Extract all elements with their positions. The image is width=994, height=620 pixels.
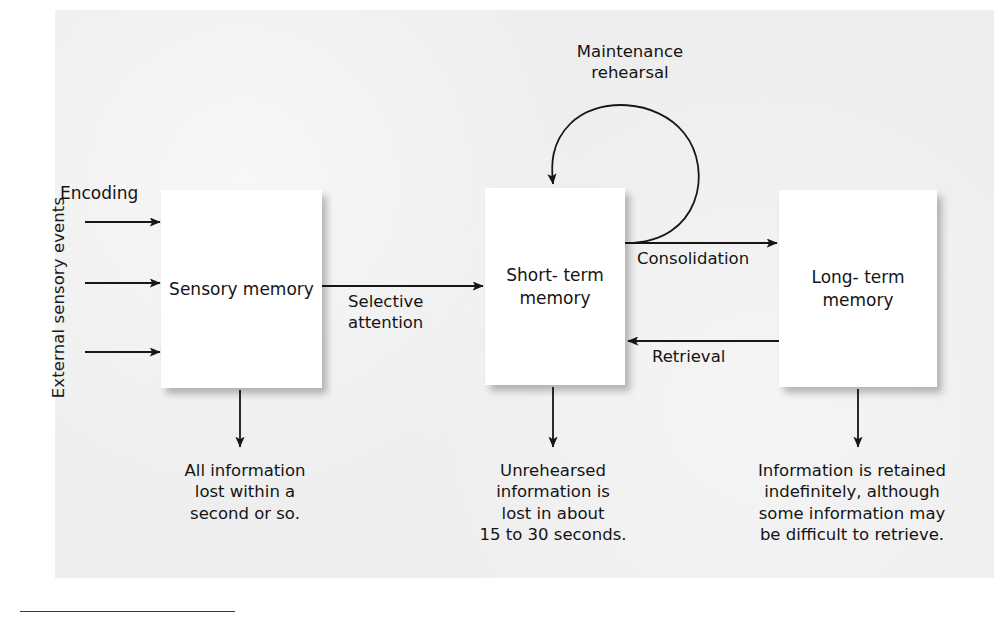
box-long-term-memory: Long- term memory (779, 190, 937, 387)
footnote-rule (20, 611, 235, 612)
box-short-term-memory: Short- term memory (485, 188, 625, 385)
box-sensory-memory: Sensory memory (161, 190, 322, 388)
box-long-term-memory-label: Long- term memory (779, 266, 937, 311)
retrieval-label: Retrieval (652, 347, 725, 368)
consolidation-label: Consolidation (637, 249, 749, 270)
maintenance-rehearsal-label: Maintenance rehearsal (520, 42, 740, 84)
diagram-canvas: External sensory events (0, 0, 994, 620)
caption-sensory-memory: All information lost within a second or … (140, 460, 350, 524)
box-short-term-memory-label: Short- term memory (485, 264, 625, 309)
box-sensory-memory-label: Sensory memory (165, 278, 318, 300)
encoding-label: Encoding (60, 183, 138, 204)
caption-long-term-memory: Information is retained indefinitely, al… (716, 460, 988, 546)
external-sensory-events-label: External sensory events (49, 178, 68, 418)
selective-attention-label: Selective attention (348, 292, 423, 334)
caption-short-term-memory: Unrehearsed information is lost in about… (440, 460, 666, 546)
